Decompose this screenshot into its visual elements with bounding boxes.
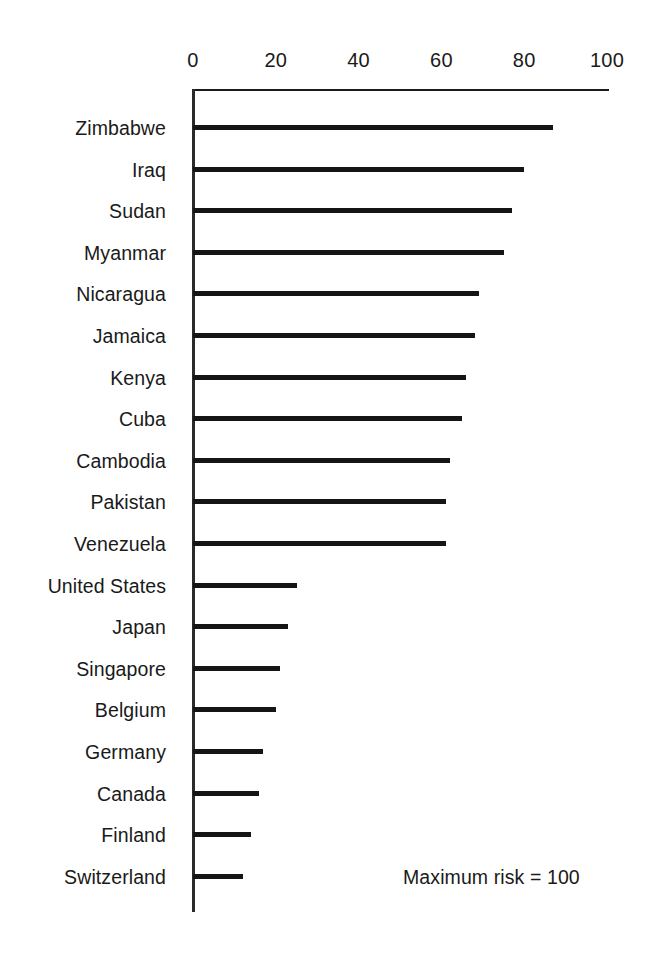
bar-united-states xyxy=(193,583,297,588)
bar-row: Myanmar xyxy=(0,238,658,268)
max-risk-annotation: Maximum risk = 100 xyxy=(403,865,580,889)
bar-row: Belgium xyxy=(0,695,658,725)
category-label-cuba: Cuba xyxy=(0,404,166,434)
bar-row: Finland xyxy=(0,820,658,850)
x-tick-0: 0 xyxy=(187,48,198,72)
bar-japan xyxy=(193,624,288,629)
bar-row: Germany xyxy=(0,737,658,767)
category-label-venezuela: Venezuela xyxy=(0,529,166,559)
category-label-finland: Finland xyxy=(0,820,166,850)
bar-row: Pakistan xyxy=(0,487,658,517)
bar-row: Jamaica xyxy=(0,321,658,351)
category-label-cambodia: Cambodia xyxy=(0,446,166,476)
category-label-canada: Canada xyxy=(0,779,166,809)
bar-row: Iraq xyxy=(0,155,658,185)
bar-venezuela xyxy=(193,541,446,546)
bar-row: Cambodia xyxy=(0,446,658,476)
category-label-belgium: Belgium xyxy=(0,695,166,725)
bar-row: Sudan xyxy=(0,196,658,226)
x-tick-40: 40 xyxy=(347,48,370,72)
x-axis-line xyxy=(193,89,609,91)
chart-container: 020406080100 ZimbabweIraqSudanMyanmarNic… xyxy=(0,0,658,959)
bar-row: United States xyxy=(0,571,658,601)
category-label-germany: Germany xyxy=(0,737,166,767)
x-tick-80: 80 xyxy=(513,48,536,72)
bar-sudan xyxy=(193,208,512,213)
plot-area: 020406080100 ZimbabweIraqSudanMyanmarNic… xyxy=(0,0,658,959)
x-tick-60: 60 xyxy=(430,48,453,72)
bar-row: Kenya xyxy=(0,363,658,393)
bar-kenya xyxy=(193,375,466,380)
bar-iraq xyxy=(193,167,524,172)
bar-belgium xyxy=(193,707,276,712)
category-label-switzerland: Switzerland xyxy=(0,862,166,892)
category-label-jamaica: Jamaica xyxy=(0,321,166,351)
category-label-zimbabwe: Zimbabwe xyxy=(0,113,166,143)
bar-row: Canada xyxy=(0,779,658,809)
bar-row: Cuba xyxy=(0,404,658,434)
bar-zimbabwe xyxy=(193,125,553,130)
category-label-kenya: Kenya xyxy=(0,363,166,393)
category-label-sudan: Sudan xyxy=(0,196,166,226)
bar-row: Nicaragua xyxy=(0,279,658,309)
bar-germany xyxy=(193,749,263,754)
bar-row: Singapore xyxy=(0,654,658,684)
bar-row: Venezuela xyxy=(0,529,658,559)
bar-finland xyxy=(193,832,251,837)
bar-switzerland xyxy=(193,874,243,879)
x-tick-20: 20 xyxy=(264,48,287,72)
bar-myanmar xyxy=(193,250,504,255)
category-label-myanmar: Myanmar xyxy=(0,238,166,268)
bar-cuba xyxy=(193,416,462,421)
bar-cambodia xyxy=(193,458,450,463)
category-label-nicaragua: Nicaragua xyxy=(0,279,166,309)
bar-jamaica xyxy=(193,333,475,338)
category-label-united-states: United States xyxy=(0,571,166,601)
bar-row: Japan xyxy=(0,612,658,642)
bar-nicaragua xyxy=(193,291,479,296)
x-tick-100: 100 xyxy=(590,48,624,72)
category-label-pakistan: Pakistan xyxy=(0,487,166,517)
category-label-singapore: Singapore xyxy=(0,654,166,684)
bar-singapore xyxy=(193,666,280,671)
bar-pakistan xyxy=(193,499,446,504)
bar-canada xyxy=(193,791,259,796)
category-label-iraq: Iraq xyxy=(0,155,166,185)
category-label-japan: Japan xyxy=(0,612,166,642)
bar-row: Zimbabwe xyxy=(0,113,658,143)
